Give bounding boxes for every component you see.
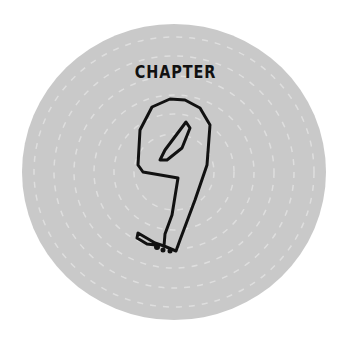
chapter-number-nine-icon [0,0,351,340]
